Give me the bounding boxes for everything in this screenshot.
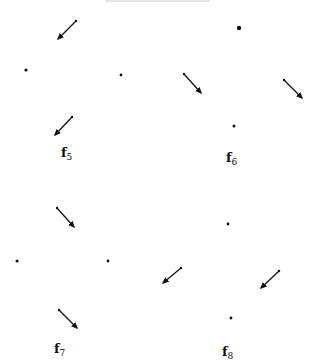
label-subscript: 6	[232, 157, 238, 167]
point-dot	[237, 26, 241, 30]
panel-f8	[163, 223, 280, 320]
panel-label-f5: f5	[61, 146, 72, 162]
arrow-tail-dot	[183, 73, 185, 75]
point-dot	[227, 223, 230, 226]
vector-arrow	[55, 117, 72, 135]
arrow-tail-dot	[56, 207, 58, 209]
point-dot	[233, 125, 236, 128]
arrow-tail-dot	[58, 309, 60, 311]
point-dot	[120, 74, 123, 77]
vector-arrow	[284, 80, 302, 98]
label-subscript: 7	[60, 348, 66, 358]
vector-arrow	[58, 21, 76, 39]
point-dot	[107, 260, 110, 263]
point-dot	[24, 68, 27, 71]
panel-f5	[24, 20, 122, 135]
arrow-tail-dot	[278, 270, 280, 272]
point-dot	[16, 260, 19, 263]
label-subscript: 8	[228, 351, 234, 361]
arrow-tail-dot	[180, 267, 182, 269]
panel-label-f7: f7	[54, 342, 65, 358]
vector-arrow	[163, 268, 181, 283]
vector-arrow	[57, 208, 74, 227]
point-dot	[230, 317, 233, 320]
label-subscript: 5	[67, 152, 73, 162]
arrow-tail-dot	[71, 116, 73, 118]
vector-arrow	[59, 310, 77, 328]
panel-label-f8: f8	[222, 345, 233, 361]
vector-arrow	[261, 271, 279, 288]
panel-label-f6: f6	[226, 151, 237, 167]
arrow-tail-dot	[75, 20, 77, 22]
panel-f6	[183, 26, 302, 128]
vector-arrow	[184, 74, 201, 93]
arrow-tail-dot	[283, 79, 285, 81]
panel-f7	[16, 207, 110, 328]
vector-field-diagram	[0, 0, 314, 363]
